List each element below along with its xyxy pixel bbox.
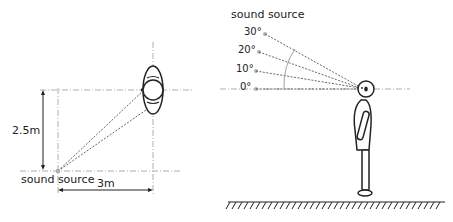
vertical-dimension-arrow xyxy=(41,90,45,170)
vertical-distance-label: 2.5m xyxy=(12,125,40,136)
angle-label-10: 10° xyxy=(236,64,254,74)
ground-hatching xyxy=(226,202,445,209)
source-dots-side xyxy=(254,32,267,91)
listener-figure-side-icon xyxy=(354,81,374,196)
angle-label-0: 0° xyxy=(240,82,251,92)
angle-label-30: 30° xyxy=(244,27,262,37)
sound-paths-side xyxy=(256,34,360,89)
left-sound-source-label: sound source xyxy=(21,174,94,185)
sound-paths-top xyxy=(58,91,146,171)
angle-label-20: 20° xyxy=(238,45,256,55)
diagram-canvas xyxy=(0,0,453,222)
horizontal-distance-label: 3m xyxy=(97,178,115,189)
side-view-diagram xyxy=(220,32,445,209)
right-sound-source-label: sound source xyxy=(231,9,304,20)
angle-arc xyxy=(284,49,295,89)
listener-head-top-icon xyxy=(141,66,163,114)
